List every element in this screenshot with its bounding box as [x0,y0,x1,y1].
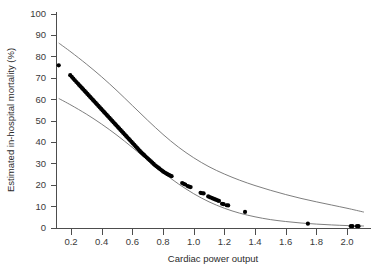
data-point [57,63,61,67]
data-point [226,203,230,207]
upper-confidence-curve [59,43,364,212]
y-tick-label: 80 [35,51,46,62]
y-tick-label: 60 [35,94,46,105]
data-points [57,63,361,228]
figure-container: 0102030405060708090100 0.20.40.60.81.01.… [0,0,377,270]
x-tick-label: 2.0 [340,236,353,247]
data-point [169,174,173,178]
y-tick-label: 100 [30,8,46,19]
y-tick-label: 30 [35,158,46,169]
y-axis-tick-marks [51,15,57,229]
x-tick-label: 1.6 [279,236,292,247]
data-point [306,222,310,226]
data-point [356,224,360,228]
x-tick-label: 1.4 [248,236,261,247]
x-tick-label: 0.6 [126,236,139,247]
x-axis-tick-labels: 0.20.40.60.81.01.21.41.61.82.0 [64,236,353,247]
data-point [189,185,193,189]
data-point [202,191,206,195]
data-point [350,224,354,228]
data-point [243,210,247,214]
x-tick-label: 0.2 [64,236,77,247]
y-tick-label: 90 [35,29,46,40]
y-tick-label: 40 [35,136,46,147]
y-tick-label: 70 [35,72,46,83]
y-tick-label: 0 [41,222,46,233]
x-tick-label: 1.8 [310,236,323,247]
y-axis-title: Estimated in-hospital mortality (%) [5,48,16,192]
x-axis-title: Cardiac power output [168,253,259,264]
page-edge-artifact [322,1,325,8]
x-tick-label: 0.8 [156,236,169,247]
y-tick-label: 20 [35,179,46,190]
y-tick-label: 10 [35,201,46,212]
x-tick-label: 1.0 [187,236,200,247]
lower-confidence-curve [59,98,364,226]
x-tick-label: 1.2 [218,236,231,247]
y-tick-label: 50 [35,115,46,126]
x-axis-tick-marks [72,229,348,235]
y-axis-tick-labels: 0102030405060708090100 [30,8,46,233]
scatter-plot-with-confidence-bands: 0102030405060708090100 0.20.40.60.81.01.… [0,0,377,270]
x-tick-label: 0.4 [95,236,108,247]
